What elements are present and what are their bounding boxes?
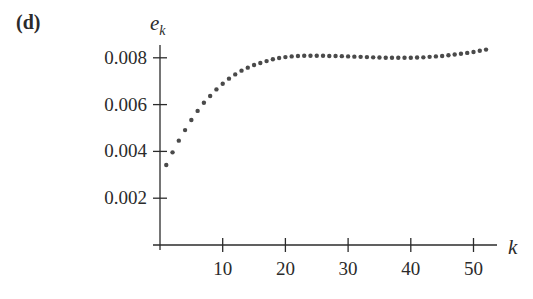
x-tick-label: 20 [276,258,295,279]
scatter-chart: 0.0020.0040.0060.008 1020304050 ek k [0,0,533,299]
data-points [164,47,488,167]
data-point [484,47,488,51]
data-point [283,55,287,59]
data-point [177,138,181,142]
data-point [308,53,312,57]
data-point [333,54,337,58]
data-point [402,56,406,60]
y-axis-label-base: e [150,11,159,35]
y-axis-label-sub: k [159,23,166,38]
data-point [264,59,268,63]
data-point [396,56,400,60]
data-point [371,55,375,59]
data-point [277,56,281,60]
data-point [471,50,475,54]
data-point [321,53,325,57]
data-point [478,49,482,53]
data-point [409,56,413,60]
data-point [202,101,206,105]
data-point [446,53,450,57]
y-tick-label: 0.008 [104,47,147,68]
data-point [258,61,262,65]
data-point [358,55,362,59]
y-tick-label: 0.002 [104,187,147,208]
data-point [246,65,250,69]
data-point [427,55,431,59]
data-point [170,150,174,154]
data-point [415,55,419,59]
data-point [440,54,444,58]
data-point [164,163,168,167]
axes [153,45,497,250]
data-point [346,54,350,58]
y-axis-label: ek [150,11,166,38]
data-point [233,72,237,76]
x-axis-label: k [508,235,518,259]
data-point [221,82,225,86]
data-point [214,87,218,91]
data-point [390,56,394,60]
data-point [377,55,381,59]
data-point [289,54,293,58]
data-point [365,55,369,59]
data-point [239,68,243,72]
data-point [340,54,344,58]
x-tick-label: 10 [213,258,232,279]
data-point [183,128,187,132]
data-point [421,55,425,59]
data-point [271,57,275,61]
data-point [296,54,300,58]
data-point [227,76,231,80]
data-point [189,118,193,122]
x-ticks: 1020304050 [213,238,483,279]
data-point [208,94,212,98]
x-tick-label: 40 [401,258,420,279]
x-tick-label: 50 [464,258,483,279]
data-point [452,52,456,56]
data-point [327,54,331,58]
y-tick-label: 0.006 [104,94,147,115]
data-point [384,56,388,60]
data-point [302,53,306,57]
data-point [459,52,463,56]
data-point [195,109,199,113]
data-point [252,63,256,67]
data-point [434,54,438,58]
data-point [465,51,469,55]
data-point [315,53,319,57]
y-tick-label: 0.004 [104,140,147,161]
x-tick-label: 30 [339,258,358,279]
data-point [352,54,356,58]
y-ticks: 0.0020.0040.0060.008 [104,47,167,208]
